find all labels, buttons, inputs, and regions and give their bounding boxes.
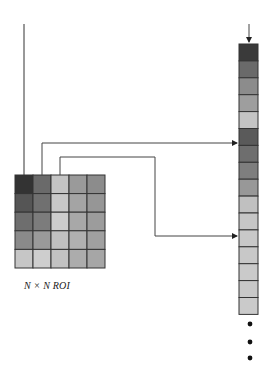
roi-cell (33, 249, 51, 268)
vector-cell (239, 129, 258, 146)
roi-cell (51, 194, 69, 213)
roi-label: N × N ROI (24, 280, 70, 291)
vector-cell (239, 44, 258, 61)
roi-cell (87, 194, 105, 213)
roi-cell (51, 231, 69, 250)
vector-cell (239, 145, 258, 162)
roi-cell (87, 231, 105, 250)
roi-cell (51, 212, 69, 231)
vector-cell (239, 281, 258, 298)
connector-arrow-1 (42, 143, 237, 175)
roi-cell (15, 212, 33, 231)
roi-cell (33, 175, 51, 194)
roi-cell (51, 249, 69, 268)
roi-cell (33, 231, 51, 250)
vector-cell (239, 298, 258, 315)
roi-cell (69, 249, 87, 268)
vector-cell (239, 230, 258, 247)
roi-cell (69, 175, 87, 194)
roi-cell (33, 194, 51, 213)
roi-cell (69, 212, 87, 231)
roi-cell (87, 175, 105, 194)
roi-cell (33, 212, 51, 231)
vector-cell (239, 264, 258, 281)
roi-cell (15, 175, 33, 194)
vector-cell (239, 95, 258, 112)
vector-cell (239, 196, 258, 213)
roi-cell (69, 194, 87, 213)
vector-cell (239, 112, 258, 129)
roi-cell (15, 231, 33, 250)
roi-to-vector-diagram (0, 0, 271, 386)
roi-grid (15, 175, 105, 268)
roi-cell (15, 249, 33, 268)
continuation-dot (248, 340, 253, 345)
vector-cell (239, 213, 258, 230)
vector-cell (239, 61, 258, 78)
roi-cell (87, 212, 105, 231)
continuation-dot (248, 356, 253, 361)
continuation-dot (248, 322, 253, 327)
vector-cell (239, 78, 258, 95)
roi-cell (51, 175, 69, 194)
feature-vector-column (239, 44, 258, 314)
vector-cell (239, 179, 258, 196)
vector-cell (239, 162, 258, 179)
roi-cell (87, 249, 105, 268)
roi-cell (69, 231, 87, 250)
roi-cell (15, 194, 33, 213)
vector-cell (239, 247, 258, 264)
